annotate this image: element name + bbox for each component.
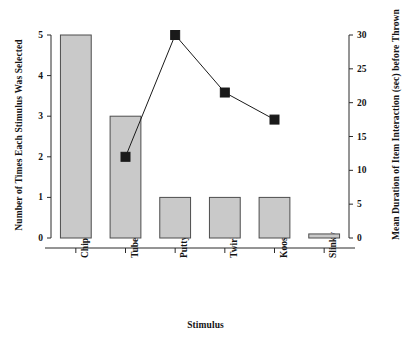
bar-chips: [60, 35, 91, 238]
line-segment: [225, 93, 275, 120]
bar-twirling-toy: [209, 197, 240, 238]
plot-area: [0, 0, 411, 346]
line-segment: [126, 35, 176, 157]
line-segment: [175, 35, 225, 93]
line-marker-twirling-toy: [220, 88, 229, 97]
bar-slinky: [309, 234, 340, 238]
line-marker-putty: [171, 31, 180, 40]
line-marker-tube: [121, 152, 130, 161]
bar-putty: [160, 197, 191, 238]
bar-tube: [110, 116, 141, 238]
line-marker-koosh-ball: [270, 115, 279, 124]
chart-figure: Number of Times Each Stimulus Was Select…: [0, 0, 411, 346]
bar-koosh-ball: [259, 197, 290, 238]
